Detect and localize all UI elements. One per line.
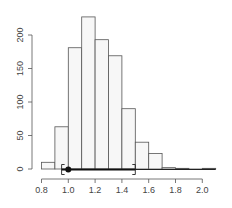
y-tick-label: 150 (15, 61, 25, 76)
histogram-chart: 050100150200 0.81.01.21.41.61.82.0 (0, 0, 232, 208)
histogram-bar (109, 56, 122, 169)
histogram-bar (82, 17, 95, 169)
histogram-bar (122, 109, 135, 169)
y-tick-label: 0 (15, 166, 25, 171)
histogram-bar (176, 168, 189, 169)
x-tick-label: 2.0 (196, 185, 209, 195)
y-tick-label: 200 (15, 27, 25, 42)
y-tick-label: 50 (15, 130, 25, 140)
x-tick-label: 0.8 (35, 185, 48, 195)
x-tick-label: 1.6 (142, 185, 155, 195)
y-tick-label: 100 (15, 94, 25, 109)
point-estimate-marker (65, 167, 71, 173)
x-tick-label: 1.0 (62, 185, 75, 195)
histogram-bars (42, 17, 216, 170)
histogram-bar (202, 168, 215, 169)
histogram-bar (95, 40, 108, 169)
histogram-bar (135, 142, 148, 169)
y-axis: 050100150200 (15, 27, 32, 171)
histogram-bar (42, 162, 55, 169)
x-tick-label: 1.2 (89, 185, 102, 195)
histogram-bar (68, 48, 81, 169)
histogram-bar (149, 154, 162, 169)
x-tick-label: 1.8 (169, 185, 182, 195)
x-axis: 0.81.01.21.41.61.82.0 (35, 179, 208, 195)
x-tick-label: 1.4 (116, 185, 129, 195)
histogram-bar (55, 127, 68, 169)
histogram-bar (162, 168, 175, 169)
